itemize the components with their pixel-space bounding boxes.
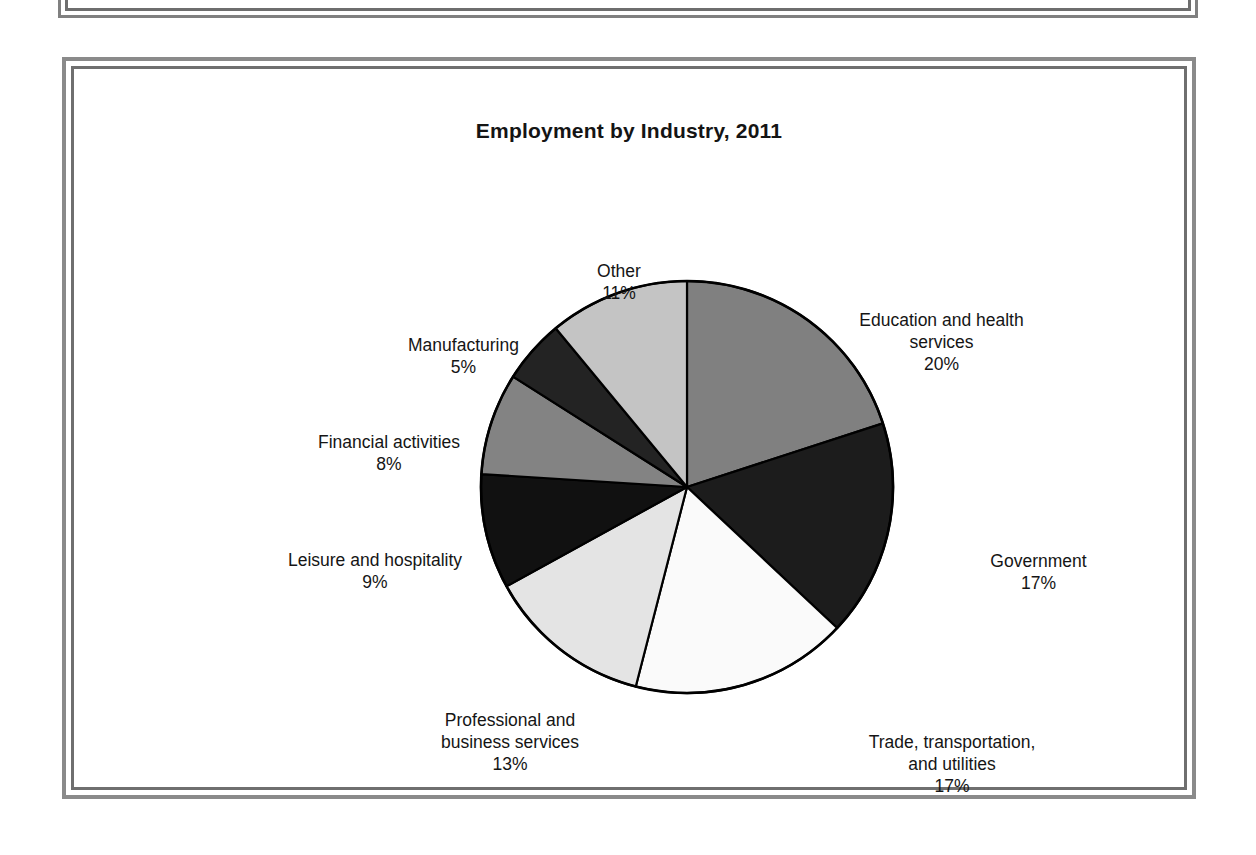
- slice-label-financial-activities: Financial activities 8%: [254, 431, 524, 475]
- chart-title: Employment by Industry, 2011: [74, 119, 1184, 143]
- slice-label-other: Other 11%: [544, 260, 694, 304]
- page-canvas: Employment by Industry, 2011 Other 11% E…: [0, 0, 1256, 855]
- chart-frame-inner: Employment by Industry, 2011 Other 11% E…: [71, 66, 1187, 790]
- chart-frame: Employment by Industry, 2011 Other 11% E…: [62, 57, 1196, 799]
- slice-label-leisure-and-hospitality: Leisure and hospitality 9%: [226, 549, 524, 593]
- slice-label-manufacturing: Manufacturing 5%: [356, 334, 571, 378]
- top-partial-frame: [58, 0, 1198, 18]
- slice-label-trade-transportation-and-utilities: Trade, transportation, and utilities 17%: [816, 731, 1088, 797]
- slice-label-government: Government 17%: [946, 550, 1131, 594]
- slice-label-education-and-health-services: Education and health services 20%: [819, 309, 1064, 375]
- pie-chart: Employment by Industry, 2011 Other 11% E…: [74, 69, 1184, 787]
- slice-label-professional-and-business-services: Professional and business services 13%: [385, 709, 635, 775]
